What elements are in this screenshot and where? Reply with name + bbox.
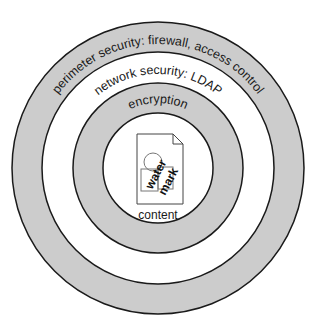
security-layers-diagram: perimeter security: firewall, access con… (0, 0, 315, 331)
content-label: content (138, 208, 178, 222)
watermarked-document-icon: water mark (137, 134, 183, 204)
